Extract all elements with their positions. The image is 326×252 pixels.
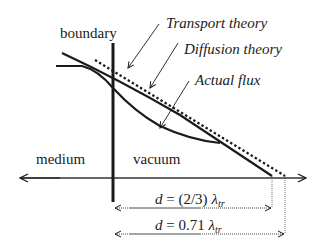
dimension-label-d1: d = (2/3) λtr [155,191,225,209]
boundary-label: boundary [60,25,117,41]
actual-flux-leader-arrow [160,81,189,128]
flux-boundary-diagram: boundary medium vacuum Transport theory … [0,0,326,252]
actual-flux-label: Actual flux [194,72,261,88]
diffusion-theory-label: Diffusion theory [183,41,282,57]
transport-leader-arrow [128,24,159,68]
transport-theory-label: Transport theory [166,15,268,31]
dimension-label-d2: d = 0.71 λtr [155,217,222,235]
diffusion-leader-arrow [150,43,178,88]
vacuum-label: vacuum [133,151,181,167]
medium-label: medium [36,151,85,167]
